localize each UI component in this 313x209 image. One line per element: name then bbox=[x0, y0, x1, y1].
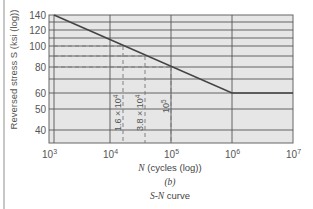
x-axis-label: N (cycles (log)) bbox=[110, 162, 230, 173]
x-tick-1e4: 104 bbox=[103, 148, 118, 160]
x-tick-1e3: 103 bbox=[42, 148, 57, 160]
y-tick-40: 40 bbox=[35, 125, 47, 136]
caption-var: S-N bbox=[150, 191, 164, 201]
figure-caption: S-N curve bbox=[110, 190, 230, 201]
x-tick-labels: 103 104 105 106 107 bbox=[42, 148, 301, 160]
y-axis-label: Reversed stress S (ksi (log)) bbox=[8, 10, 19, 130]
y-tick-labels: 140 120 100 80 60 50 40 bbox=[29, 10, 46, 136]
x-axis-rest: (cycles (log)) bbox=[145, 162, 202, 173]
y-tick-140: 140 bbox=[29, 10, 46, 21]
x-tick-1e5: 105 bbox=[164, 148, 179, 160]
y-tick-80: 80 bbox=[35, 62, 47, 73]
x-tick-1e6: 106 bbox=[225, 148, 240, 160]
y-tick-100: 100 bbox=[29, 41, 46, 52]
y-tick-60: 60 bbox=[35, 88, 47, 99]
annotation-1.6e4: 1.6 × 104 bbox=[112, 94, 123, 131]
annotation-3.8e4: 3.8 × 104 bbox=[134, 94, 145, 131]
y-tick-50: 50 bbox=[35, 104, 47, 115]
figure-subtitle: (b) bbox=[110, 177, 230, 187]
y-tick-120: 120 bbox=[29, 25, 46, 36]
caption-rest: curve bbox=[164, 190, 190, 201]
x-tick-1e7: 107 bbox=[286, 148, 301, 160]
